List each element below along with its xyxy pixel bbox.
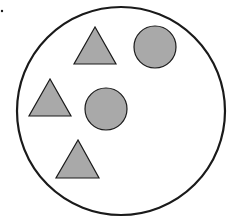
circle-center	[85, 88, 127, 130]
triangle-bottom	[56, 140, 99, 178]
circle-top-right	[134, 26, 176, 68]
triangle-left	[29, 79, 71, 116]
shape-diagram	[0, 0, 232, 223]
triangle-top	[74, 27, 116, 64]
marker-dot	[1, 10, 3, 12]
